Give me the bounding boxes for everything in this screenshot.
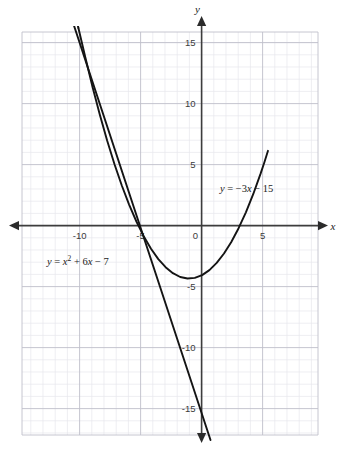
graph-svg: y x -10 -5 0 5 15 10 5 -5 -10 -15 <box>0 0 341 453</box>
y-tick-label: -5 <box>187 281 195 292</box>
x-tick-label: 5 <box>260 230 265 241</box>
x-tick-label: 0 <box>193 230 198 241</box>
y-tick-label: -15 <box>182 403 196 414</box>
y-tick-label: 15 <box>185 37 196 48</box>
figure-background <box>0 0 341 453</box>
x-tick-label: -10 <box>73 230 87 241</box>
parabola-equation-label: y = x2 + 6x − 7 <box>46 254 109 268</box>
y-axis-label: y <box>194 3 200 15</box>
y-tick-label: -10 <box>182 342 196 353</box>
x-axis-label: x <box>330 220 336 232</box>
y-tick-label: 10 <box>185 98 196 109</box>
line-equation-label: y = −3x − 15 <box>219 183 273 194</box>
coordinate-plane-graph: y x -10 -5 0 5 15 10 5 -5 -10 -15 <box>0 0 341 453</box>
y-tick-label: 5 <box>190 159 195 170</box>
